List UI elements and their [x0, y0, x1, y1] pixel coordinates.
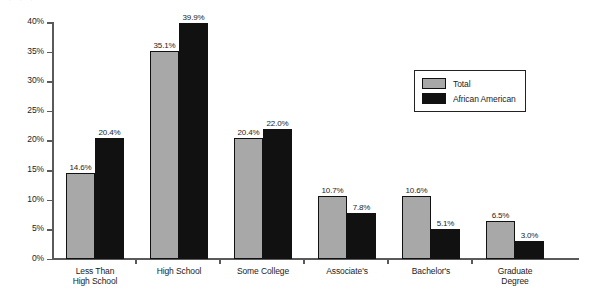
bar-value-label: 14.6%: [70, 163, 92, 172]
category-line-1: Graduate: [471, 266, 559, 276]
legend-label-total: Total: [453, 79, 470, 89]
y-tick-label: 5%: [32, 223, 44, 233]
y-axis-line: [52, 22, 54, 259]
bar-value-label: 35.1%: [154, 41, 176, 50]
bar-value-label: 7.8%: [353, 203, 371, 212]
y-tick-mark: [47, 52, 52, 54]
bar-value-label: 39.9%: [183, 13, 205, 22]
bar-african-american: 3.0%: [515, 241, 544, 259]
y-tick-mark: [47, 22, 52, 24]
bar-total: 14.6%: [66, 173, 95, 260]
y-tick-mark: [47, 259, 52, 261]
bar-value-label: 10.7%: [322, 186, 344, 195]
y-tick-label: 20%: [27, 134, 44, 144]
category-line-1: Less Than: [51, 266, 139, 276]
y-tick-mark: [47, 170, 52, 172]
bar-total: 20.4%: [234, 138, 263, 259]
bar-value-label: 10.6%: [406, 186, 428, 195]
clipped-title-artifact: · · ·: [0, 0, 589, 9]
y-tick-mark: [47, 200, 52, 202]
category-line-1: Associate's: [303, 266, 391, 276]
y-tick-label: 40%: [27, 16, 44, 26]
bar-value-label: 20.4%: [99, 128, 121, 137]
legend-swatch-total: [422, 78, 446, 89]
bar-value-label: 5.1%: [437, 219, 455, 228]
category-line-2: Degree: [471, 276, 559, 286]
x-category-label-less-than-high-school: Less Than High School: [51, 266, 139, 286]
y-tick-label: 30%: [27, 75, 44, 85]
y-tick-label: 25%: [27, 105, 44, 115]
legend-entry-total: Total: [422, 76, 516, 91]
x-tick-mark: [135, 259, 137, 264]
y-tick-mark: [47, 140, 52, 142]
x-tick-mark: [219, 259, 221, 264]
x-category-label-some-college: Some College: [219, 266, 307, 276]
chart-legend: Total African American: [414, 70, 526, 112]
category-line-2: High School: [51, 276, 139, 286]
bar-total: 6.5%: [486, 221, 515, 260]
x-tick-mark: [471, 259, 473, 264]
bar-african-american: 20.4%: [95, 138, 124, 259]
clipped-title-text: · · ·: [8, 0, 35, 5]
category-line-1: High School: [135, 266, 223, 276]
y-tick-label: 10%: [27, 194, 44, 204]
y-tick-label: 0%: [32, 253, 44, 263]
category-line-1: Bachelor's: [387, 266, 475, 276]
x-category-label-associates: Associate's: [303, 266, 391, 276]
bar-african-american: 22.0%: [263, 129, 292, 259]
bar-african-american: 7.8%: [347, 213, 376, 259]
bar-total: 35.1%: [150, 51, 179, 259]
x-category-label-graduate-degree: Graduate Degree: [471, 266, 559, 286]
bar-african-american: 39.9%: [179, 23, 208, 259]
bar-total: 10.7%: [318, 196, 347, 259]
bar-african-american: 5.1%: [431, 229, 460, 259]
y-tick-mark: [47, 81, 52, 83]
legend-entry-african-american: African American: [422, 91, 516, 106]
x-tick-mark: [387, 259, 389, 264]
legend-swatch-african-american: [422, 93, 446, 104]
x-tick-mark: [303, 259, 305, 264]
bar-value-label: 20.4%: [238, 128, 260, 137]
y-tick-mark: [47, 111, 52, 113]
bar-value-label: 6.5%: [492, 211, 510, 220]
y-tick-mark: [47, 229, 52, 231]
bar-total: 10.6%: [402, 196, 431, 259]
y-tick-label: 15%: [27, 164, 44, 174]
x-category-label-bachelors: Bachelor's: [387, 266, 475, 276]
bar-value-label: 22.0%: [267, 119, 289, 128]
bar-chart: · · · 40% 35% 30% 25% 20% 15% 10% 5% 0%: [0, 0, 589, 295]
bar-value-label: 3.0%: [521, 231, 539, 240]
category-line-1: Some College: [219, 266, 307, 276]
legend-label-african-american: African American: [453, 94, 516, 104]
y-tick-label: 35%: [27, 46, 44, 56]
x-category-label-high-school: High School: [135, 266, 223, 276]
